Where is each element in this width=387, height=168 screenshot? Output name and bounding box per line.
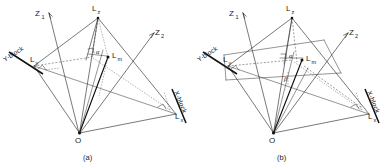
svg-text:Z: Z <box>35 9 40 18</box>
svg-text:Z: Z <box>229 9 234 18</box>
svg-text:L: L <box>175 112 180 121</box>
label-z1-a: Z 1 <box>35 9 45 20</box>
caption-b: (b) <box>277 153 287 162</box>
label-angle-alpha-a: α <box>96 48 100 55</box>
base-edge-ly-lm-a <box>34 57 92 66</box>
label-ly-a: L y <box>30 55 39 66</box>
label-lm-b: L m <box>306 54 317 65</box>
label-z1-b: Z 1 <box>229 9 239 20</box>
label-origin-b: O <box>269 136 275 145</box>
svg-text:2: 2 <box>355 33 358 39</box>
label-angle-alpha-b: α <box>289 52 293 59</box>
svg-text:L: L <box>112 51 117 60</box>
edge-o-lx-a <box>80 114 177 133</box>
axis-z1-arrow-a <box>49 13 52 18</box>
caption-a: (a) <box>83 153 93 162</box>
edge-lz-ly-b <box>228 18 292 66</box>
svg-text:L: L <box>30 55 35 64</box>
base-front-edge-b <box>228 66 369 114</box>
point-lm-dot-b <box>301 59 304 62</box>
axis-z2-arrow-a <box>150 33 154 38</box>
base-front-edge-a <box>34 66 176 114</box>
axis-z1-a <box>49 13 79 133</box>
edge-lz-ly-a <box>34 18 98 66</box>
edge-o-ly-a <box>34 66 80 133</box>
label-ly-b: L y <box>223 55 232 66</box>
ray-o-lm-a <box>80 57 109 133</box>
svg-text:L: L <box>223 55 228 64</box>
edge-o-lx-b <box>274 114 370 133</box>
label-z2-b: Z 2 <box>349 28 358 39</box>
svg-text:L: L <box>92 4 97 13</box>
base-edge-ly-lm-b <box>228 60 292 66</box>
svg-text:2: 2 <box>161 33 164 39</box>
point-lz-dot-a <box>97 17 100 20</box>
axis-z2-b <box>274 33 348 133</box>
base-edge-lm-lx-b <box>294 62 362 110</box>
axis-z2-a <box>80 33 154 133</box>
svg-text:L: L <box>368 112 373 121</box>
label-lz-b: L z <box>286 4 295 15</box>
svg-text:x: x <box>374 117 377 123</box>
lx-drop-b <box>356 92 362 110</box>
axis-z2-arrow-b <box>344 33 348 38</box>
axis-z1-arrow-b <box>243 13 246 18</box>
svg-text:y: y <box>229 60 232 66</box>
label-lm-a: L m <box>112 51 123 62</box>
edge-lz-lx-a <box>98 18 176 114</box>
svg-text:L: L <box>286 4 291 13</box>
svg-text:1: 1 <box>42 14 45 20</box>
midplane-top-b <box>224 40 324 55</box>
svg-text:z: z <box>292 9 295 15</box>
label-origin-a: O <box>75 136 81 145</box>
label-x-block-b: X-block <box>366 90 381 115</box>
label-lz-a: L z <box>92 4 101 15</box>
svg-text:y: y <box>36 60 39 66</box>
panel-b-diagram: Z 1 Z 2 L z L m L y L x α β O Y-block X-… <box>194 0 387 168</box>
edge-o-ly-b <box>228 66 274 133</box>
ray-o-lm-b <box>274 60 303 133</box>
figure-root: Z 1 Z 2 L z L m L y L x α O Y-block X-bl… <box>0 0 387 168</box>
svg-text:m: m <box>312 59 317 65</box>
point-origin-dot-b <box>272 132 275 135</box>
edge-lz-inner2-b <box>292 18 297 62</box>
svg-text:Z: Z <box>349 28 354 37</box>
point-origin-dot-a <box>78 132 81 135</box>
point-lz-dot-b <box>291 17 294 20</box>
svg-text:m: m <box>118 56 123 62</box>
svg-text:x: x <box>181 117 184 123</box>
svg-text:1: 1 <box>236 14 239 20</box>
axis-z1-b <box>243 13 273 133</box>
svg-text:Z: Z <box>155 28 160 37</box>
right-angle-guide-ly-a <box>46 68 60 70</box>
svg-text:z: z <box>98 9 101 15</box>
label-z2-a: Z 2 <box>155 28 164 39</box>
ray-o-inner-a <box>80 50 104 133</box>
point-lm-dot-a <box>107 56 110 59</box>
label-x-block-a: X-block <box>173 90 188 115</box>
svg-text:L: L <box>306 54 311 63</box>
panel-a-diagram: Z 1 Z 2 L z L m L y L x α O Y-block X-bl… <box>0 0 194 168</box>
ray-o-inner1-b <box>274 52 295 133</box>
